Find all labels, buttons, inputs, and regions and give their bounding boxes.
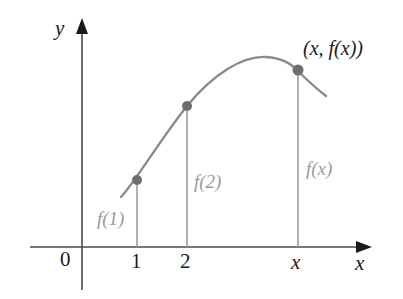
origin-label: 0 <box>60 249 71 270</box>
x-axis-label: x <box>355 253 364 274</box>
x-tick-label-1: 1 <box>131 251 142 272</box>
y-axis-label: y <box>55 18 64 39</box>
function-curve <box>121 57 326 197</box>
function-graph-figure: y x 0 1 2 x f(1) f(2) f(x) (x, f(x)) <box>0 0 403 299</box>
point-marker-x2 <box>182 101 192 111</box>
x-tick-label-2: 2 <box>180 251 191 272</box>
value-label-f2: f(2) <box>194 172 221 191</box>
point-marker-x <box>293 65 304 76</box>
y-axis-arrowhead <box>76 18 88 34</box>
value-label-fx: f(x) <box>306 159 332 178</box>
value-label-f1: f(1) <box>97 209 124 228</box>
x-tick-label-x: x <box>291 252 300 273</box>
point-marker-x1 <box>132 175 142 185</box>
point-annotation-label: (x, f(x)) <box>303 38 363 58</box>
